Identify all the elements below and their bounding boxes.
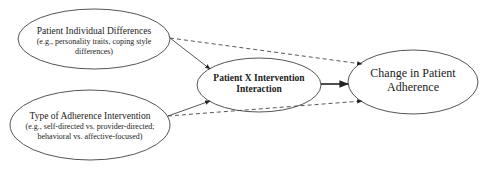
node-title: Interaction — [199, 84, 319, 95]
node-title: Type of Adherence Intervention — [12, 111, 168, 122]
edge-intervention-to-interaction — [168, 101, 210, 116]
node-title: Adherence — [350, 80, 476, 94]
edge-differences-to-interaction — [170, 38, 210, 69]
node-subtitle: (e.g., self-directed vs. provider-direct… — [12, 122, 168, 132]
node-title: Patient X Intervention — [199, 73, 319, 84]
node-subtitle: behavioral vs. affective-focused) — [12, 132, 168, 142]
node-title: Patient Individual Differences — [18, 26, 170, 37]
node-subtitle: (e.g., personality traits, coping style — [18, 37, 170, 47]
node-title: Change in Patient — [350, 66, 476, 80]
node-patient-differences-label: Patient Individual Differences (e.g., pe… — [18, 26, 170, 57]
node-outcome-label: Change in Patient Adherence — [350, 66, 476, 95]
edge-intervention-to-outcome-dashed — [168, 101, 362, 116]
node-interaction-label: Patient X Intervention Interaction — [199, 73, 319, 96]
node-subtitle: differences) — [18, 47, 170, 57]
node-intervention-type-label: Type of Adherence Intervention (e.g., se… — [12, 111, 168, 142]
